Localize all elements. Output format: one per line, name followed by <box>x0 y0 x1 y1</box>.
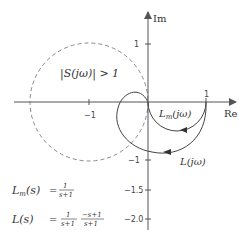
l-equation-lhs: L(s) <box>11 213 34 226</box>
lm-arrow-icon <box>180 127 187 133</box>
l-den2: s+1 <box>84 220 98 228</box>
nyquist-diagram: −1 1 1 −1 −1.5 −2.0 Re Im |S(jω)| > 1 Lm… <box>0 0 250 247</box>
lm-equals: = <box>49 185 57 196</box>
y-tick-neg1.5: −1.5 <box>124 186 143 195</box>
l-den1: s+1 <box>61 220 75 228</box>
y-tick-neg1: −1 <box>128 156 140 165</box>
l-curve-label: L(jω) <box>179 156 206 167</box>
l-equals: = <box>49 214 57 225</box>
lm-num: 1 <box>63 182 67 190</box>
y-axis-label: Im <box>153 13 167 24</box>
y-tick-neg2: −2.0 <box>124 215 143 224</box>
x-tick-neg1: −1 <box>84 111 96 120</box>
l-arrow-icon <box>163 149 171 155</box>
lm-den: s+1 <box>59 191 73 199</box>
l-curve <box>117 92 206 153</box>
x-axis-label: Re <box>224 108 238 119</box>
lm-curve-label: Lm(jω) <box>158 108 191 121</box>
l-num2: −s+1 <box>82 211 102 219</box>
y-tick-1: 1 <box>134 40 139 49</box>
x-tick-1: 1 <box>204 90 209 99</box>
lm-equation-lhs: Lm(s) <box>11 184 40 198</box>
l-num1: 1 <box>66 211 70 219</box>
sensitivity-label: |S(jω)| > 1 <box>60 67 119 81</box>
